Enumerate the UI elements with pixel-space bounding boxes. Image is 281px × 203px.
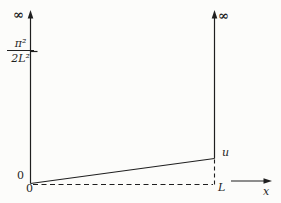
left-wall-arrowhead-icon (28, 10, 34, 19)
x-axis-label: x (263, 185, 269, 199)
origin-x-value-label: 0 (26, 182, 33, 196)
x-axis-arrowhead-icon (264, 178, 273, 184)
energy-level-label: π² 2L² (7, 37, 34, 65)
infinity-symbol-left: ∞ (13, 9, 23, 21)
infinity-symbol-right: ∞ (218, 10, 228, 22)
diagram-canvas (0, 0, 281, 203)
well-width-label-L: L (218, 181, 225, 195)
energy-level-numerator: π² (7, 37, 34, 51)
energy-level-denominator: 2L² (7, 51, 34, 65)
trial-function-line (31, 159, 215, 184)
origin-y-value-label: 0 (17, 169, 24, 183)
infinite-square-well-diagram: ∞ ∞ π² 2L² 0 0 u L x (0, 0, 281, 203)
curve-label-u: u (222, 146, 229, 160)
right-wall-arrowhead-icon (212, 10, 218, 19)
